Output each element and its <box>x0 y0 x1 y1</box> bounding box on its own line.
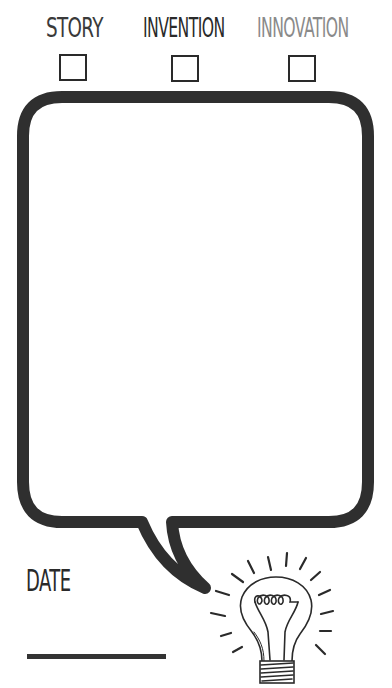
lightbulb-icon <box>211 553 333 683</box>
date-input-line[interactable] <box>27 654 166 659</box>
bubble-text-area[interactable] <box>29 103 362 516</box>
date-label: DATE <box>26 566 70 596</box>
